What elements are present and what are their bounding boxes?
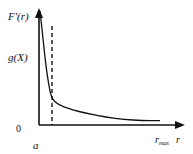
label-r-max: rmax [155,134,169,146]
series-curve [40,11,160,121]
label-a: a [33,139,39,151]
label-f-prime: F'(r) [7,10,29,23]
label-r-max-sub: max [159,140,169,146]
y-axis-arrowhead [35,8,43,18]
label-g-x: g(X) [8,51,28,64]
label-r: r [176,134,180,145]
x-axis-arrowhead [175,121,185,129]
diagram: F'(r) g(X) 0 a rmax r [0,0,193,154]
label-zero: 0 [16,123,21,134]
